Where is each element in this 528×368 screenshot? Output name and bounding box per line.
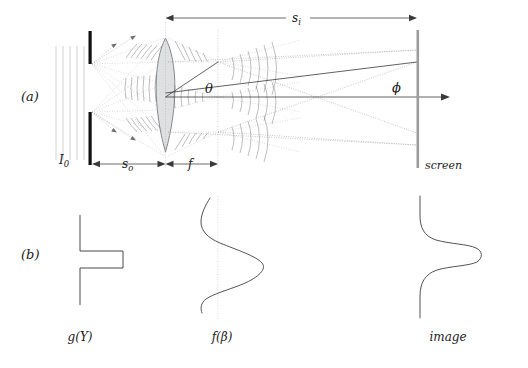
plot-f-of-beta-curve	[201, 198, 263, 313]
panel-a-label: (a)	[21, 89, 39, 104]
intensity-label: I0	[58, 153, 70, 169]
phi-label: ϕ	[392, 80, 401, 95]
plot-f-of-beta-label: f(β)	[211, 330, 233, 344]
diffraction-cones-left	[92, 36, 164, 156]
orders-to-screen	[168, 50, 417, 145]
dimension-s-o-label: so	[122, 157, 133, 173]
plot-image-label: image	[429, 330, 466, 344]
screen-label: screen	[425, 159, 462, 172]
figure-root: (a) I0 so f si θ ϕ screen (b) g(Y) f(β) …	[0, 0, 528, 368]
screen-bar	[417, 30, 420, 168]
plot-g-of-Y-curve	[80, 215, 123, 305]
panel-b-label: (b)	[21, 247, 39, 262]
theta-label: θ	[205, 81, 213, 96]
plane-wave-lines	[56, 46, 84, 160]
slit-aperture	[89, 31, 92, 165]
optics-figure: (a) I0 so f si θ ϕ screen (b) g(Y) f(β) …	[0, 0, 528, 368]
panel-b-group: (b) g(Y) f(β) image	[21, 196, 481, 344]
plot-image-curve	[420, 196, 481, 318]
stray-ray-arrowheads	[111, 36, 136, 141]
panel-a-group: (a) I0 so f si θ ϕ screen	[21, 11, 462, 173]
dimension-s-i-label: si	[292, 11, 301, 27]
plot-g-of-Y-label: g(Y)	[68, 330, 93, 344]
